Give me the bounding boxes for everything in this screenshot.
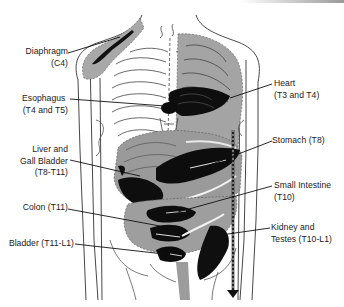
label-diaphragm-segment: (C4) — [18, 58, 68, 70]
label-bladder-name: Bladder (T11-L1) — [2, 238, 74, 250]
label-liver-gall-bladder: Liver and Gall Bladder (T8-T11) — [8, 144, 68, 179]
label-liver-line1: Liver and — [8, 144, 68, 156]
down-arrow-icon — [227, 290, 239, 298]
label-diaphragm: Diaphragm (C4) — [18, 46, 68, 69]
label-small-intestine-name: Small Intestine — [274, 180, 331, 192]
label-stomach-name: Stomach (T8) — [272, 135, 325, 147]
label-liver-segment: (T8-T11) — [8, 167, 68, 179]
label-kidney-segment: Testes (T10-L1) — [271, 234, 332, 246]
label-heart-segment: (T3 and T4) — [274, 90, 319, 102]
referred-pain-diagram: Diaphragm (C4) Esophagus (T4 and T5) Liv… — [0, 0, 344, 307]
label-esophagus-name: Esophagus — [4, 93, 68, 105]
label-esophagus-segment: (T4 and T5) — [4, 105, 68, 117]
label-colon-name: Colon (T11) — [8, 202, 68, 214]
label-stomach: Stomach (T8) — [272, 135, 325, 147]
label-colon: Colon (T11) — [8, 202, 68, 214]
label-kidney-name: Kidney and — [271, 222, 332, 234]
label-heart-name: Heart — [274, 78, 319, 90]
label-liver-line2: Gall Bladder — [8, 156, 68, 168]
label-heart: Heart (T3 and T4) — [274, 78, 319, 101]
label-kidney-testes: Kidney and Testes (T10-L1) — [271, 222, 332, 245]
label-bladder: Bladder (T11-L1) — [2, 238, 74, 250]
label-diaphragm-name: Diaphragm — [18, 46, 68, 58]
label-esophagus: Esophagus (T4 and T5) — [4, 93, 68, 116]
label-small-intestine: Small Intestine (T10) — [274, 180, 331, 203]
label-small-intestine-segment: (T10) — [274, 192, 331, 204]
